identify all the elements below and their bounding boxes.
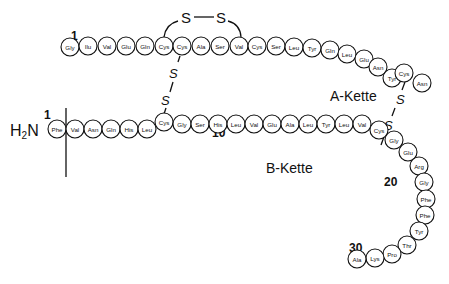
residue-a12: Ser [267,37,285,55]
svg-text:Leu: Leu [342,51,353,58]
sulfur-label: S [161,93,170,108]
svg-text:Phe: Phe [420,196,432,203]
residue-b16: Tyr [317,115,335,133]
svg-text:Val: Val [358,121,366,128]
residue-b24: Phe [417,190,435,208]
residue-a14: Tyr [303,39,321,57]
residue-a11: Cys [248,37,266,55]
svg-text:Val: Val [235,43,243,50]
residue-a2: Ilu [79,37,97,55]
residue-b20: Gly [385,131,403,149]
svg-text:Glu: Glu [359,56,369,63]
residue-b12: Val [245,115,263,133]
residue-a5: Gln [136,37,154,55]
svg-text:Cys: Cys [374,127,385,134]
residue-a9: Ser [211,37,229,55]
residue-b15: Leu [299,115,317,133]
residue-b14: Ala [281,115,299,133]
residue-a7: Cys [173,37,191,55]
residue-b22: Arg [410,157,428,175]
residue-a8: Ala [192,37,210,55]
residue-a6: Cys [155,37,173,55]
svg-text:Ala: Ala [353,256,363,263]
svg-text:Leu: Leu [231,121,242,128]
svg-text:Ilu: Ilu [85,43,92,50]
svg-text:Asn: Asn [373,64,384,71]
residue-b9: Ser [191,115,209,133]
svg-text:Thr: Thr [402,242,411,249]
svg-text:Cys: Cys [399,70,410,77]
residue-b29: Lys [366,249,384,267]
residue-b25: Phe [416,206,434,224]
residue-b11: Leu [227,115,245,133]
svg-text:Pro: Pro [387,251,397,258]
residue-b5: His [120,120,138,138]
svg-text:His: His [214,121,223,128]
a-chain: Gly Ilu Val Glu Gln Cys Cys Ala Ser Val … [61,37,431,92]
svg-text:Gly: Gly [419,179,429,186]
b-chain-marker-20: 20 [384,175,398,189]
insulin-diagram: S S S S S S 1 A-Kette 1 H2N 10 B-Kette 2… [0,0,449,284]
svg-text:Leu: Leu [142,126,153,133]
residue-b26: Tyr [410,222,428,240]
svg-text:Asn: Asn [417,80,428,87]
svg-text:Ala: Ala [286,121,296,128]
svg-text:Cys: Cys [252,43,263,50]
b-chain-label: B-Kette [266,160,313,176]
svg-text:Gly: Gly [177,121,187,128]
svg-text:Leu: Leu [339,121,350,128]
sulfur-label: S [216,9,226,26]
n-terminus-label: H2N [10,122,39,141]
disulfide-a6-a11: S S [164,9,241,37]
svg-text:Lys: Lys [370,255,379,262]
residue-b6: Leu [138,120,156,138]
diagram-canvas: S S S S S S 1 A-Kette 1 H2N 10 B-Kette 2… [0,0,449,284]
svg-text:Val: Val [71,126,79,133]
svg-text:Gln: Gln [140,43,150,50]
residue-b4: Gln [102,120,120,138]
residue-b1: Phe [48,120,66,138]
svg-text:Glu: Glu [267,121,277,128]
svg-text:Cys: Cys [159,43,170,50]
residue-a15: Gln [321,41,339,59]
svg-text:His: His [125,126,134,133]
residue-b18: Val [353,115,371,133]
svg-text:Val: Val [103,43,111,50]
b-chain: Phe Val Asn Gln His Leu Cys Gly Ser His … [48,113,435,268]
svg-text:Gln: Gln [325,47,335,54]
sulfur-label: S [396,92,405,107]
sulfur-label: S [181,9,191,26]
residue-a1: Gly [61,38,79,56]
svg-text:Asn: Asn [88,126,99,133]
svg-text:Glu: Glu [121,43,131,50]
svg-text:Val: Val [250,121,258,128]
svg-text:Gly: Gly [65,44,75,51]
svg-text:Ser: Ser [195,121,205,128]
residue-a13: Leu [285,38,303,56]
svg-text:Leu: Leu [289,44,300,51]
residue-b8: Gly [173,115,191,133]
svg-text:Cys: Cys [177,43,188,50]
svg-text:Gly: Gly [389,137,399,144]
residue-b28: Pro [383,245,401,263]
residue-a4: Glu [117,37,135,55]
sulfur-label: S [169,66,178,81]
svg-text:Tyr: Tyr [322,121,331,128]
residue-a3: Val [98,37,116,55]
residue-a16: Leu [338,45,356,63]
disulfide-a7-b7: S S [161,56,180,114]
svg-text:Ala: Ala [197,43,207,50]
residue-b7: Cys [155,113,173,131]
residue-b2: Val [66,120,84,138]
residue-b30: Ala [348,250,366,268]
residue-a20: Cys [395,64,413,82]
svg-text:Phe: Phe [419,212,431,219]
b-chain-start-number: 1 [44,108,51,122]
svg-text:Ser: Ser [271,43,281,50]
svg-text:Leu: Leu [303,121,314,128]
svg-text:Gln: Gln [106,126,116,133]
residue-b10: His [209,115,227,133]
residue-b3: Asn [84,120,102,138]
a-chain-label: A-Kette [330,88,377,104]
svg-text:Tyr: Tyr [308,45,317,52]
